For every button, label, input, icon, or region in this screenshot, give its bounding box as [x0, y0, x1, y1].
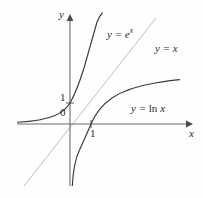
log-label-arg: x [160, 102, 165, 114]
graph-canvas [0, 0, 203, 198]
y-axis-label: y [59, 9, 64, 20]
log-label-fn: ln [149, 102, 160, 114]
x-axis [17, 121, 193, 128]
x-axis-label: x [189, 128, 194, 139]
logarithm-curve [72, 80, 180, 186]
y-axis [67, 14, 74, 186]
function-graph-figure: y x 0 1 1 y = ex y = x y = ln x [0, 0, 203, 198]
log-label-lhs: y = [131, 102, 149, 114]
y-tick-label-1: 1 [60, 92, 66, 103]
exp-label-exponent: x [130, 26, 133, 35]
x-tick-label-1: 1 [90, 128, 96, 139]
identity-line-label: y = x [155, 43, 178, 54]
exp-label-lhs: y = [107, 28, 125, 40]
origin-label: 0 [60, 107, 66, 118]
exponential-curve-label: y = ex [107, 27, 133, 40]
logarithm-curve-label: y = ln x [131, 103, 165, 114]
